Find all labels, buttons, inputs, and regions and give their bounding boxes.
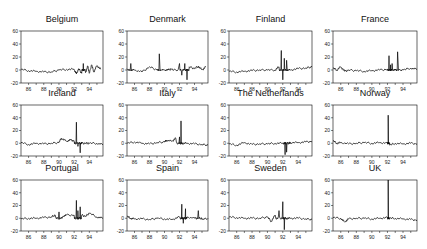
plot-frame bbox=[333, 180, 417, 231]
y-tick-label: 0 bbox=[327, 215, 330, 221]
x-tick-label: 90 bbox=[369, 234, 375, 240]
x-tick-label: 92 bbox=[385, 234, 391, 240]
plot-area: -2002040608688909294 bbox=[0, 0, 427, 249]
x-tick-label: 88 bbox=[354, 234, 360, 240]
y-tick-label: 20 bbox=[324, 202, 330, 208]
x-tick-label: 94 bbox=[400, 234, 406, 240]
y-tick-label: -20 bbox=[323, 228, 330, 234]
y-tick-label: 60 bbox=[324, 177, 330, 183]
series-line bbox=[333, 180, 417, 222]
y-tick-label: 40 bbox=[324, 190, 330, 196]
x-tick-label: 86 bbox=[338, 234, 344, 240]
